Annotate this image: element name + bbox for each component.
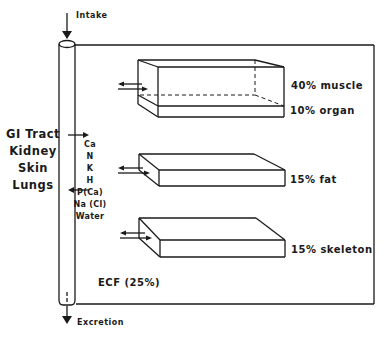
substance-h: H xyxy=(70,175,110,187)
ecf-label: ECF (25%) xyxy=(98,277,160,288)
muscle-organ-compartment xyxy=(118,60,284,117)
organ-lungs: Lungs xyxy=(0,177,66,194)
organ-skin: Skin xyxy=(0,160,66,177)
substance-k: K xyxy=(70,163,110,175)
organ-label: 10% organ xyxy=(290,105,355,116)
substance-ca: Ca xyxy=(70,139,110,151)
excretion-arrow-icon xyxy=(62,306,72,324)
fat-label: 15% fat xyxy=(290,174,337,185)
organ-gi-tract: GI Tract xyxy=(0,126,66,143)
fat-compartment xyxy=(118,154,285,186)
substance-p-ca: P(Ca) xyxy=(70,187,110,199)
skeleton-label: 15% skeleton xyxy=(291,244,373,255)
substance-na-cl: Na (Cl) xyxy=(70,199,110,211)
uptake-arrow-icon xyxy=(68,132,89,138)
muscle-label: 40% muscle xyxy=(291,80,363,91)
organ-kidney: Kidney xyxy=(0,143,66,160)
intake-label: Intake xyxy=(76,11,107,20)
body-composition-diagram: Intake Excretion GI Tract Kidney Skin Lu… xyxy=(0,0,389,342)
substance-water: Water xyxy=(70,211,110,223)
intake-arrow-icon xyxy=(62,13,72,39)
skeleton-compartment xyxy=(120,218,285,257)
substance-n: N xyxy=(70,151,110,163)
excretion-label: Excretion xyxy=(77,318,124,327)
exchange-organs-list: GI Tract Kidney Skin Lungs xyxy=(0,126,66,194)
substances-list: Ca N K H P(Ca) Na (Cl) Water xyxy=(70,139,110,223)
